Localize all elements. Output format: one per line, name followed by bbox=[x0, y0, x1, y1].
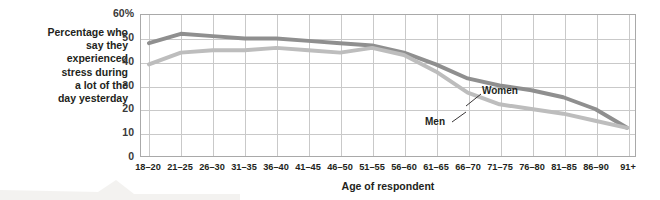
x-tick-label: 26–30 bbox=[199, 162, 225, 172]
y-tick-label: 60% bbox=[96, 7, 134, 19]
x-tick-label: 36–40 bbox=[263, 162, 289, 172]
y-tick-label: 20 bbox=[96, 102, 134, 114]
x-tick-label: 61–65 bbox=[423, 162, 449, 172]
series-label-men: Men bbox=[425, 116, 445, 127]
y-axis-title-line-4: stress during bbox=[18, 66, 128, 79]
x-tick-label: 66–70 bbox=[455, 162, 481, 172]
y-tick-label: 10 bbox=[96, 126, 134, 138]
series-lines bbox=[141, 15, 635, 156]
x-tick-label: 51–55 bbox=[359, 162, 385, 172]
x-tick-label: 76–80 bbox=[519, 162, 545, 172]
chart-figure: Percentage who say they experienced stre… bbox=[0, 0, 660, 200]
x-tick-label: 91+ bbox=[620, 162, 636, 172]
x-tick-label: 46–50 bbox=[327, 162, 353, 172]
plot-area bbox=[140, 14, 636, 157]
y-tick-label: 0 bbox=[96, 150, 134, 162]
x-tick-label: 71–75 bbox=[487, 162, 513, 172]
x-tick-label: 18–20 bbox=[135, 162, 161, 172]
x-tick-label: 41–45 bbox=[295, 162, 321, 172]
series-label-women: Women bbox=[482, 85, 518, 96]
series-line-men bbox=[149, 48, 627, 128]
x-tick-label: 81–85 bbox=[551, 162, 577, 172]
decorative-band bbox=[0, 180, 240, 200]
x-tick-label: 21–25 bbox=[167, 162, 193, 172]
x-tick-label: 31–35 bbox=[231, 162, 257, 172]
x-tick-label: 56–60 bbox=[391, 162, 417, 172]
y-tick-label: 40 bbox=[96, 55, 134, 67]
y-tick-label: 30 bbox=[96, 79, 134, 91]
y-tick-label: 50 bbox=[96, 31, 134, 43]
x-tick-label: 86–90 bbox=[583, 162, 609, 172]
